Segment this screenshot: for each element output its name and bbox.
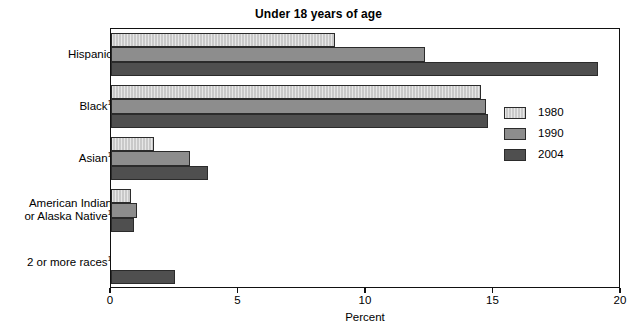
legend-item-1980: 1980 [504,104,600,125]
bar-1980-hispanic [111,33,335,48]
legend-swatch-icon-2004 [504,149,526,161]
category-label-line1: American Indian [24,197,112,210]
bar-1980-black [111,85,481,100]
legend-label-2004: 2004 [538,147,564,162]
bar-1980-asian [111,137,154,152]
bar-2004-asian [111,166,208,181]
legend-item-1990: 1990 [504,125,600,146]
legend-label-1980: 1980 [538,105,564,120]
chart-title: Under 18 years of age [0,7,637,21]
bar-1990-american-indian-or-alaska-native [111,203,137,218]
category-label-asian: Asian1 [79,152,112,165]
legend: 1980 1990 2004 [504,104,600,167]
legend-swatch-icon-1990 [504,128,526,140]
bar-2004-hispanic [111,62,598,77]
category-label-line2-wrap: or Alaska Native1 [24,210,112,223]
x-tick-20 [619,288,620,293]
x-tick-5 [237,288,238,293]
category-label-line2: or Alaska Native [24,210,107,222]
legend-swatch-icon-1980 [504,107,526,119]
bar-chart: Under 18 years of age Hispanic Black1 As… [0,0,637,334]
x-tick-label-10: 10 [345,294,385,307]
bar-2004-american-indian-or-alaska-native [111,218,134,233]
x-tick-10 [364,288,365,293]
x-tick-15 [492,288,493,293]
bar-2004-black [111,114,488,129]
bar-2004-2-or-more-races [111,270,175,285]
category-label-2-or-more-races: 2 or more races1 [27,256,112,269]
category-label-line1: Black [79,100,107,112]
legend-label-1990: 1990 [538,126,564,141]
bar-1990-black [111,99,486,114]
category-label-line1: 2 or more races [27,256,108,268]
category-label-black: Black1 [79,100,112,113]
x-tick-label-20: 20 [600,294,637,307]
legend-item-2004: 2004 [504,146,600,167]
x-tick-0 [109,288,110,293]
category-label-line1: Asian [79,152,108,164]
bar-1990-asian [111,151,190,166]
x-axis-title: Percent [110,311,620,324]
category-label-american-indian-alaska-native: American Indian or Alaska Native1 [24,197,112,223]
bar-1990-hispanic [111,47,425,62]
x-tick-label-5: 5 [218,294,258,307]
x-tick-label-0: 0 [90,294,130,307]
category-label-hispanic: Hispanic [68,48,112,61]
bar-1980-american-indian-or-alaska-native [111,189,131,204]
category-label-line1: Hispanic [68,48,112,60]
x-tick-label-15: 15 [473,294,513,307]
